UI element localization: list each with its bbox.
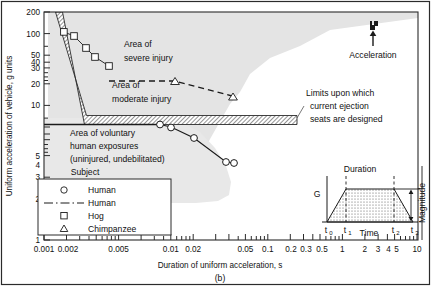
x-tick-label: 0.002 <box>58 245 79 254</box>
y-tick-label: 4 <box>35 161 40 170</box>
x-tick-label: 0.5 <box>316 245 328 254</box>
x-tick-label: 0.01 <box>163 245 179 254</box>
x-axis: 0.001 0.002 0.005 0.01 0.02 0.05 0.1 0.2… <box>34 234 422 270</box>
ejection-limits-line2: current ejection <box>310 101 369 111</box>
ejection-limits-line3: seats are designed <box>310 114 383 124</box>
y-tick-label: 10 <box>31 101 41 110</box>
acceleration-label: Acceleration <box>349 50 397 60</box>
x-tick-label: 1 <box>340 245 345 254</box>
y-tick-label: 1 <box>35 236 40 245</box>
x-tick-label: 0.005 <box>108 245 129 254</box>
inset-magnitude-arrowhead-up <box>409 190 414 195</box>
y-tick-label: 30 <box>31 64 41 73</box>
x-tick-label: 3 <box>376 245 381 254</box>
inset-pulse-shape <box>327 189 413 222</box>
legend-label-human-line: Human <box>88 198 116 208</box>
severe-injury-label-line2: severe injury <box>124 53 173 63</box>
ejection-limits-line1: Limits upon which <box>306 88 375 98</box>
x-tick-label: 0.02 <box>185 245 201 254</box>
moderate-injury-label-line2: moderate injury <box>112 94 172 104</box>
acceleration-indicator: Acceleration <box>349 21 397 60</box>
voluntary-label-line3: (uninjured, undebilitated) <box>70 154 165 164</box>
voluntary-label-line1: Area of voluntary <box>70 128 136 138</box>
x-tick-label: 0.2 <box>285 245 297 254</box>
figure-container: 200 100 50 40 30 20 10 5 4 3 2 1 Uniform… <box>0 0 431 286</box>
legend-title: Subject <box>71 167 100 177</box>
inset-g-label: G <box>314 189 321 199</box>
severe-injury-label-line1: Area of <box>124 39 152 49</box>
y-axis-label: Uniform acceleration of vehicle, g units <box>5 56 14 197</box>
chart-svg: 200 100 50 40 30 20 10 5 4 3 2 1 Uniform… <box>0 0 431 286</box>
inset-magnitude-label: Magnitude <box>417 183 427 223</box>
x-axis-label: Duration of uniform acceleration, s <box>158 261 283 270</box>
x-tick-label: 5 <box>394 245 399 254</box>
legend-label-hog: Hog <box>88 211 104 221</box>
inset-t1-label: t <box>344 225 347 235</box>
x-tick-label: 0.001 <box>34 245 55 254</box>
legend-label-chimpanzee: Chimpanzee <box>88 224 136 234</box>
inset-t3-sub: 3 <box>415 230 419 236</box>
seated-figure-icon <box>370 21 378 30</box>
legend-label-human-circle: Human <box>88 185 116 195</box>
voluntary-label-line2: human exposures <box>70 141 138 151</box>
legend-marker-square <box>61 213 67 219</box>
x-tick-label: 4 <box>386 245 391 254</box>
y-tick-label: 5 <box>35 152 40 161</box>
y-tick-label: 20 <box>31 80 41 89</box>
x-tick-label: 0.3 <box>300 245 312 254</box>
moderate-injury-label-line1: Area of <box>112 80 140 90</box>
x-tick-label: 10 <box>412 245 422 254</box>
legend-marker-circle <box>61 187 67 193</box>
inset-t0-sub: 0 <box>329 230 333 236</box>
y-tick-label: 100 <box>26 30 40 39</box>
x-tick-label: 0.05 <box>237 245 253 254</box>
ejection-callout-leader <box>297 106 304 118</box>
inset-t2-label: t <box>392 225 395 235</box>
x-tick-label: 2 <box>363 245 368 254</box>
inset-duration-label: Duration <box>344 164 377 174</box>
figure-caption: (b) <box>215 273 226 283</box>
x-tick-label: 0.1 <box>262 245 274 254</box>
inset-t1-sub: 1 <box>348 230 352 236</box>
inset-t0-label: t <box>325 225 328 235</box>
inset-pulse-diagram: Duration Magnitude G t 0 t 1 t 2 t 3 Tim… <box>314 164 427 240</box>
inset-t2-sub: 2 <box>396 230 400 236</box>
inset-t3-label: t <box>411 225 414 235</box>
arrow-head-icon <box>370 31 377 37</box>
y-tick-label: 200 <box>26 8 40 17</box>
inset-time-label: Time <box>360 228 379 238</box>
